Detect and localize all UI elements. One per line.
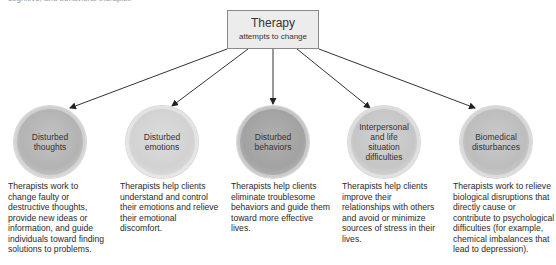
- description-biomedical: Therapists work to relieve biological di…: [453, 181, 555, 255]
- root-title: Therapy: [228, 16, 318, 30]
- root-subtitle: attempts to change: [228, 32, 318, 41]
- node-label: Disturbed thoughts: [28, 132, 72, 152]
- node-disturbed-thoughts: Disturbed thoughts: [14, 106, 86, 178]
- arrow-to-emotions: [172, 49, 248, 106]
- node-interpersonal-difficulties: Interpersonal and life situation difficu…: [348, 106, 420, 178]
- description-thoughts: Therapists work to change faulty or dest…: [8, 181, 108, 255]
- node-disturbed-emotions: Disturbed emotions: [126, 106, 198, 178]
- node-label: Interpersonal and life situation difficu…: [356, 122, 412, 162]
- arrow-to-interpersonal: [297, 49, 370, 108]
- node-label: Disturbed emotions: [140, 132, 184, 152]
- node-label: Disturbed behaviors: [251, 132, 295, 152]
- node-label: Biomedical disturbances: [467, 132, 525, 152]
- therapy-root-box: Therapy attempts to change: [227, 10, 319, 49]
- node-biomedical-disturbances: Biomedical disturbances: [460, 106, 532, 178]
- description-behaviors: Therapists help clients eliminate troubl…: [231, 181, 331, 234]
- node-disturbed-behaviors: Disturbed behaviors: [237, 106, 309, 178]
- arrow-to-biomedical: [319, 49, 475, 108]
- arrow-to-thoughts: [70, 49, 227, 108]
- description-emotions: Therapists help clients understand and c…: [120, 181, 220, 234]
- description-interpersonal: Therapists help clients improve their re…: [342, 181, 442, 244]
